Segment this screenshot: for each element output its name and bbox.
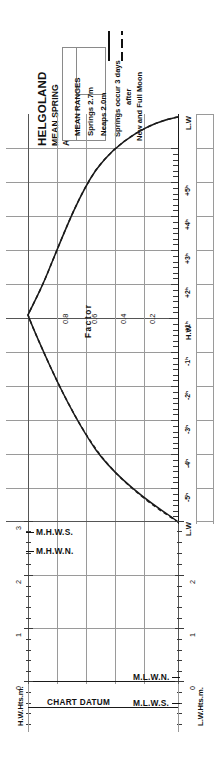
hw-height-tick-1: 1	[14, 633, 23, 637]
time-tick-minus2: -2ʰ	[184, 391, 191, 400]
factor-tick-0-6: 0.6	[90, 314, 99, 324]
lw-height-tick-2: 2	[188, 580, 197, 584]
hw-height-axis-title: H.W.Hts.m.	[16, 686, 25, 726]
level-label-mhwn: M.H.W.N.	[36, 546, 73, 556]
time-tick-lw-top: L.W	[184, 116, 193, 130]
chart-datum-line	[28, 707, 178, 708]
time-tick-plus4: +4ʰ	[184, 219, 191, 230]
factor-tick-0-2: 0.2	[148, 314, 157, 324]
mlws-tick	[172, 703, 180, 704]
factor-tick-0-8: 0.8	[61, 314, 70, 324]
time-tick-minus1: -1ʰ	[184, 357, 191, 366]
time-tick-plus2: +2ʰ	[184, 287, 191, 298]
time-tick-minus4: -4ʰ	[184, 459, 191, 468]
time-tick-minus3: -3ʰ	[184, 425, 191, 434]
mhws-tick	[26, 532, 34, 533]
time-tick-plus3: +3ʰ	[184, 253, 191, 264]
level-label-mlwn: M.L.W.N.	[133, 672, 170, 682]
tidal-curve-diagram: HELGOLAND MEAN SPRING AND NEAP CURVES ME…	[0, 0, 219, 760]
time-tick-hw: H.W	[184, 325, 193, 340]
mlwn-tick	[172, 677, 180, 678]
hw-height-tick-3: 3	[14, 526, 23, 530]
level-label-mhws: M.H.W.S.	[36, 527, 73, 537]
time-tick-plus5: +5ʰ	[184, 185, 191, 196]
mhwn-tick	[26, 551, 34, 552]
hw-height-tick-2: 2	[14, 580, 23, 584]
chart-datum-label: CHART DATUM	[47, 698, 110, 707]
lw-height-tick-1: 1	[188, 633, 197, 637]
time-tick-minus5: -5ʰ	[184, 493, 191, 502]
lw-height-axis-title: L.W.Hts.m.	[196, 687, 205, 726]
time-tick-lw-bottom: L.W	[184, 522, 193, 536]
tide-curves-svg	[0, 0, 219, 760]
factor-tick-0-4: 0.4	[119, 314, 128, 324]
